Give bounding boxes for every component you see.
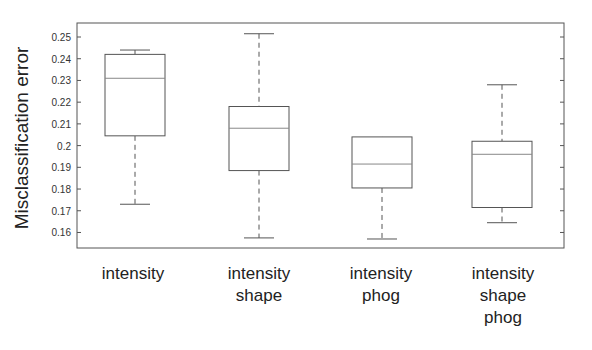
y-tick-label: 0.19: [31, 162, 71, 173]
x-tick-label: intensityshapephog: [472, 263, 534, 329]
y-tick-label: 0.16: [31, 227, 71, 238]
y-tick-label: 0.2: [31, 140, 71, 151]
y-tick-label: 0.22: [31, 97, 71, 108]
box: [352, 137, 412, 188]
y-tick-label: 0.24: [31, 53, 71, 64]
y-tick-label: 0.17: [31, 205, 71, 216]
x-tick-label: intensityphog: [350, 263, 412, 307]
y-tick-label: 0.21: [31, 118, 71, 129]
y-tick-label: 0.25: [31, 32, 71, 43]
y-tick-label: 0.18: [31, 184, 71, 195]
box: [472, 141, 532, 207]
x-tick-label: intensityshape: [228, 263, 290, 307]
box: [105, 54, 165, 135]
y-axis-label: Misclassification error: [11, 47, 33, 230]
y-tick-label: 0.23: [31, 75, 71, 86]
box: [229, 107, 289, 171]
x-tick-label: intensity: [102, 263, 164, 285]
